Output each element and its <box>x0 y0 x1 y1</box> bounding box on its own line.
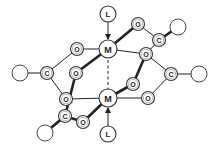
atom-label: O <box>74 46 80 53</box>
atom-label: C <box>156 37 161 44</box>
atom-ligand-l2: L <box>100 126 116 142</box>
atom-label: M <box>104 45 112 55</box>
atom-substituent-r1 <box>12 65 28 81</box>
atom-carbon-c2: C <box>165 68 178 81</box>
atom-oxygen-o2: O <box>70 67 83 80</box>
atom-substituent-r3 <box>37 125 53 141</box>
atom-label: O <box>145 95 151 102</box>
atom-label: L <box>106 10 111 19</box>
atom-carbon-c3: C <box>59 110 72 123</box>
atom-carbon-c1: C <box>41 67 54 80</box>
atom-oxygen-o7: O <box>127 78 140 91</box>
paddlewheel-complex-diagram: LMMLOOOOOOOOCCCC <box>0 0 218 151</box>
atom-oxygen-o4: O <box>140 48 153 61</box>
atom-oxygen-o5: O <box>60 93 73 106</box>
atom-label: C <box>44 70 49 77</box>
atom-label: C <box>168 71 173 78</box>
atom-label: C <box>62 113 67 120</box>
atoms: LMMLOOOOOOOOCCCC <box>12 6 207 142</box>
atom-label: O <box>130 81 136 88</box>
atom-label: O <box>63 96 69 103</box>
atom-label: O <box>80 119 86 126</box>
atom-label: O <box>73 70 79 77</box>
atom-oxygen-o8: O <box>142 92 155 105</box>
atom-carbon-c4: C <box>153 34 166 47</box>
atom-ligand-l1: L <box>100 6 116 22</box>
atom-label: O <box>135 21 141 28</box>
atom-substituent-r2 <box>191 66 207 82</box>
atom-oxygen-o1: O <box>71 43 84 56</box>
atom-oxygen-o6: O <box>77 116 90 129</box>
atom-oxygen-o3: O <box>132 18 145 31</box>
atom-metal-m2: M <box>99 89 117 107</box>
atom-label: L <box>106 130 111 139</box>
atom-label: O <box>143 51 149 58</box>
atom-metal-m1: M <box>99 40 117 58</box>
atom-label: M <box>104 94 112 104</box>
atom-substituent-r4 <box>170 19 186 35</box>
